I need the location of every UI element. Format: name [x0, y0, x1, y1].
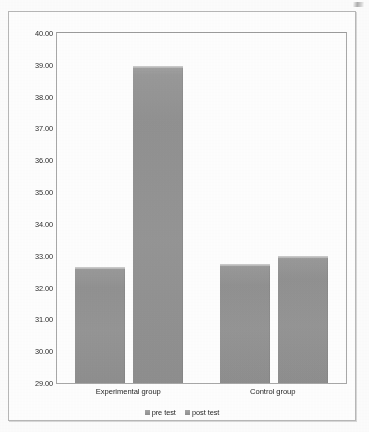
y-axis: 40.0039.0038.0037.0036.0035.0034.0033.00… [19, 32, 55, 384]
scanned-page: 40.0039.0038.0037.0036.0035.0034.0033.00… [0, 0, 369, 432]
bar-control-group-pre-test [220, 264, 270, 383]
legend-square-icon [185, 410, 190, 415]
y-axis-tick-label: 29.00 [35, 379, 53, 388]
legend-item-pre-test[interactable]: pre test [145, 408, 176, 417]
bar-experimental-group-post-test [133, 66, 183, 383]
y-axis-tick-label: 34.00 [35, 219, 53, 228]
legend-item-post-test[interactable]: post test [185, 408, 220, 417]
legend-label: pre test [152, 408, 176, 417]
y-axis-tick-label: 31.00 [35, 315, 53, 324]
y-axis-tick-label: 35.00 [35, 188, 53, 197]
x-axis-label-control-group: Control group [250, 387, 295, 396]
y-axis-tick-label: 36.00 [35, 156, 53, 165]
chart-outer-border: 40.0039.0038.0037.0036.0035.0034.0033.00… [8, 11, 356, 421]
bars-layer [57, 33, 346, 383]
y-axis-tick-label: 30.00 [35, 347, 53, 356]
legend-label: post test [192, 408, 220, 417]
y-axis-tick-label: 33.00 [35, 251, 53, 260]
scan-artifact-mark [353, 2, 364, 7]
y-axis-tick-label: 32.00 [35, 283, 53, 292]
y-axis-tick-label: 37.00 [35, 124, 53, 133]
x-axis-category-labels: Experimental groupControl group [56, 387, 347, 401]
y-axis-tick-label: 39.00 [35, 60, 53, 69]
y-axis-tick-label: 40.00 [35, 29, 53, 38]
bar-control-group-post-test [278, 256, 328, 383]
bar-experimental-group-pre-test [75, 267, 125, 383]
legend-square-icon [145, 410, 150, 415]
chart-legend: pre testpost test [9, 408, 355, 417]
x-axis-label-experimental-group: Experimental group [96, 387, 161, 396]
y-axis-tick-label: 38.00 [35, 92, 53, 101]
plot-area [56, 32, 347, 384]
